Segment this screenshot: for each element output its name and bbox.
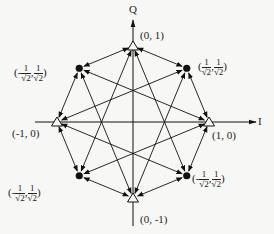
constellation-triangle-p4 (128, 193, 139, 202)
constellation-triangle-p0 (128, 41, 139, 50)
star-edge (62, 124, 183, 174)
octagon-edge (59, 73, 77, 118)
label-p1: (1√2,1√2) (198, 58, 227, 77)
fraction: 1√2 (34, 64, 43, 83)
constellation-dot-p1 (183, 65, 190, 72)
octagon-edge (138, 48, 183, 66)
fraction: 1√2 (199, 170, 208, 189)
fraction: 1√2 (15, 184, 24, 203)
i-axis-label: I (258, 116, 262, 127)
label-p6: (-1, 0) (12, 128, 40, 139)
label-p5: (-1√2,1√2) (8, 184, 41, 203)
label-p4: (0, -1) (140, 214, 168, 225)
star-edge (62, 70, 183, 120)
label-p3: (-1√2,1√2) (192, 170, 225, 189)
diagram-svg (0, 0, 274, 234)
star-edge (135, 73, 185, 194)
fraction: 1√2 (214, 58, 223, 77)
q-axis-label: Q (129, 4, 137, 15)
octagon-edge (84, 178, 129, 196)
constellation-diagram: Q I (0, 1) (1, 0) (0, -1) (-1, 0) (1√2,1… (0, 0, 274, 234)
octagon-edge (138, 178, 183, 196)
octagon-edge (59, 127, 77, 172)
constellation-dot-p7 (76, 65, 83, 72)
star-edge (81, 73, 131, 194)
fraction: 1√2 (21, 64, 30, 83)
label-p7: (-1√2,1√2) (14, 64, 47, 83)
fraction: 1√2 (212, 170, 221, 189)
star-edge (135, 51, 185, 172)
constellation-dot-p3 (183, 172, 190, 179)
label-p0: (0, 1) (140, 30, 164, 41)
star-edge (81, 51, 131, 172)
octagon-edge (84, 48, 129, 66)
label-p2: (1, 0) (212, 130, 236, 141)
octagon-edge (189, 127, 207, 172)
star-edge (84, 70, 205, 120)
fraction: 1√2 (202, 58, 211, 77)
constellation-dot-p5 (76, 172, 83, 179)
octagon-edge (189, 73, 207, 118)
star-edge (84, 124, 205, 174)
fraction: 1√2 (28, 184, 37, 203)
